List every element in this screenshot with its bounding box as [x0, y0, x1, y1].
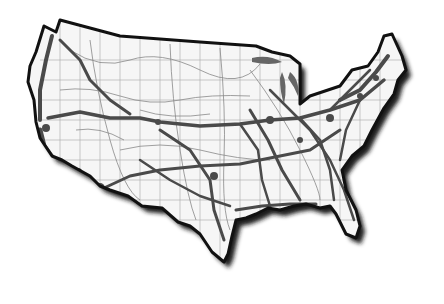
land-area — [28, 20, 406, 262]
map-container — [0, 0, 444, 304]
us-network-map — [0, 0, 444, 304]
